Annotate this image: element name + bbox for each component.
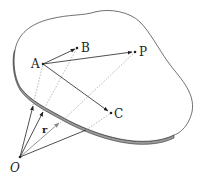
label-P: P (139, 45, 147, 59)
point-P (134, 51, 137, 54)
vector-O-to-C (20, 130, 86, 157)
label-O: O (10, 161, 20, 175)
vector-O-to-B (20, 112, 43, 157)
point-C (110, 112, 113, 115)
label-A: A (30, 57, 40, 71)
rigid-body-diagram: A B P C O r (0, 0, 203, 179)
body-surface (14, 10, 193, 141)
label-B: B (81, 41, 90, 55)
point-O (19, 156, 22, 159)
vector-r-O-to-P (20, 123, 59, 157)
label-C: C (114, 107, 123, 121)
point-B (76, 47, 79, 50)
label-r: r (42, 124, 48, 135)
vector-O-to-A (20, 106, 33, 157)
point-A (42, 63, 45, 66)
